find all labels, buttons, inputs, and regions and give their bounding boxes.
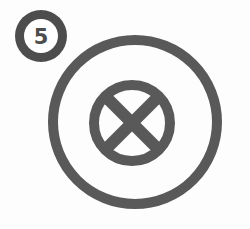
- figure-canvas: 5: [0, 0, 250, 229]
- prohibition-symbol-figure: 5: [0, 0, 250, 229]
- badge-number-label: 5: [34, 25, 49, 49]
